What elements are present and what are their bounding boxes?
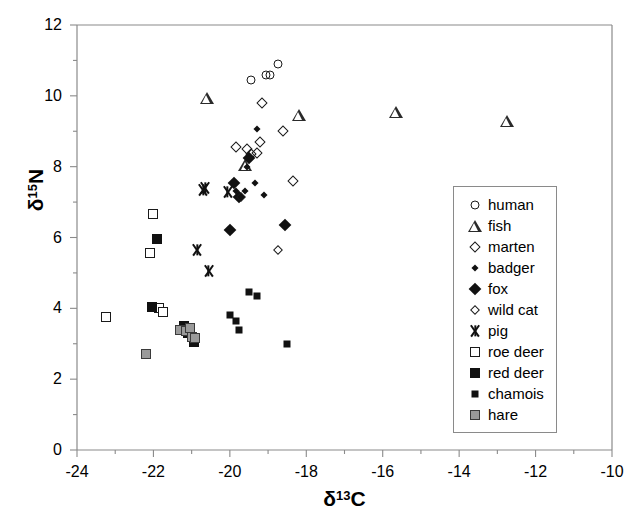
y-tick-label: 2	[32, 371, 62, 387]
hare-marker	[141, 349, 151, 359]
data-point	[245, 289, 252, 296]
chamois-marker	[472, 390, 479, 397]
data-point	[200, 92, 214, 104]
human-marker	[246, 75, 255, 84]
x-tick-label: -20	[205, 464, 255, 480]
fox-marker	[279, 219, 292, 232]
data-point	[289, 177, 297, 185]
legend-symbol	[464, 236, 486, 257]
legend-label: chamois	[486, 386, 544, 401]
data-point	[147, 302, 157, 312]
legend-symbol	[464, 215, 486, 236]
fish-marker	[292, 109, 306, 121]
legend-symbol	[464, 362, 486, 383]
hare-marker	[190, 333, 200, 343]
y-tick-label: 12	[32, 17, 62, 33]
pig-marker	[190, 243, 204, 257]
data-point	[190, 333, 200, 343]
y-axis-title-base: δ	[24, 198, 47, 211]
legend-symbol	[464, 299, 486, 320]
roe-deer-marker	[101, 312, 111, 322]
human-marker	[471, 200, 480, 209]
roe-deer-marker	[470, 347, 480, 357]
red-deer-marker	[147, 302, 157, 312]
data-point	[254, 127, 259, 132]
human-marker	[273, 59, 282, 68]
data-point	[258, 99, 266, 107]
y-axis-title-superscript: 15	[25, 184, 40, 198]
data-point	[152, 234, 162, 244]
chamois-marker	[253, 292, 260, 299]
data-point	[279, 127, 287, 135]
legend-symbol	[464, 383, 486, 404]
y-tick-label: 0	[32, 442, 62, 458]
x-axis-title-base: δ	[323, 487, 336, 510]
hare-marker	[185, 323, 195, 333]
human-marker	[265, 70, 274, 79]
fox-marker	[223, 224, 236, 237]
y-axis-title: δ15N	[24, 130, 48, 250]
legend-symbol	[464, 341, 486, 362]
data-point	[281, 221, 290, 230]
data-point	[185, 323, 195, 333]
legend-item-wild-cat[interactable]: wild cat	[464, 299, 544, 320]
legend-item-pig[interactable]: pig	[464, 320, 544, 341]
data-point	[265, 70, 274, 79]
legend-label: fish	[486, 218, 511, 233]
data-point	[238, 193, 245, 200]
x-tick-label: -12	[511, 464, 561, 480]
data-point	[148, 209, 158, 219]
pig-marker	[468, 324, 482, 338]
chart-legend: humanfishmartenbadgerfoxwild catpigroe d…	[453, 186, 557, 433]
x-tick-label: -22	[128, 464, 178, 480]
data-point	[245, 164, 250, 169]
roe-deer-marker	[158, 307, 168, 317]
data-point	[273, 59, 282, 68]
legend-label: marten	[486, 239, 535, 254]
scatter-plot-figure: 024681012 -24-22-20-18-16-14-12-10 δ15N …	[0, 0, 634, 528]
badger-marker	[244, 163, 251, 170]
data-point	[202, 264, 216, 278]
data-point	[225, 226, 234, 235]
legend-item-roe-deer[interactable]: roe deer	[464, 341, 544, 362]
data-point	[389, 106, 403, 118]
marten-marker	[287, 175, 298, 186]
marten-marker	[278, 126, 289, 137]
legend-item-fish[interactable]: fish	[464, 215, 544, 236]
legend-item-hare[interactable]: hare	[464, 404, 544, 425]
data-point	[252, 180, 257, 185]
chamois-marker	[245, 289, 252, 296]
legend-symbol	[464, 278, 486, 299]
pig-marker	[202, 264, 216, 278]
legend-item-human[interactable]: human	[464, 194, 544, 215]
y-tick-label: 4	[32, 300, 62, 316]
data-point	[221, 184, 235, 198]
legend-item-red-deer[interactable]: red deer	[464, 362, 544, 383]
fox-marker	[469, 282, 482, 295]
roe-deer-marker	[148, 209, 158, 219]
hare-marker	[470, 410, 480, 420]
data-point	[196, 183, 210, 197]
marten-marker	[255, 136, 266, 147]
legend-label: human	[486, 197, 534, 212]
fish-marker	[468, 220, 482, 232]
data-point	[274, 246, 281, 253]
badger-marker	[471, 264, 478, 271]
legend-symbol	[464, 257, 486, 278]
legend-item-fox[interactable]: fox	[464, 278, 544, 299]
x-tick-label: -14	[434, 464, 484, 480]
x-axis-title: δ13C	[77, 487, 612, 511]
data-point	[253, 149, 261, 157]
roe-deer-marker	[145, 248, 155, 258]
legend-item-marten[interactable]: marten	[464, 236, 544, 257]
wild-cat-marker	[470, 305, 480, 315]
x-tick-label: -10	[587, 464, 634, 480]
legend-symbol	[464, 194, 486, 215]
x-axis-title-superscript: 13	[336, 488, 350, 503]
fish-marker	[200, 92, 214, 104]
data-point	[244, 153, 253, 162]
chamois-marker	[284, 340, 291, 347]
legend-item-chamois[interactable]: chamois	[464, 383, 544, 404]
legend-item-badger[interactable]: badger	[464, 257, 544, 278]
data-point	[256, 138, 264, 146]
